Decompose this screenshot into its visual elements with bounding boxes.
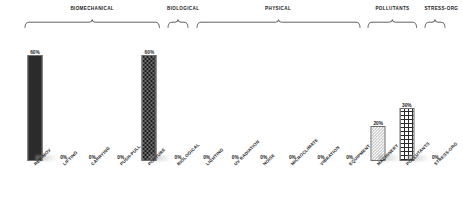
x-tick-vibration: VIBRATION: [308, 161, 334, 219]
bar-value-label: 20%: [373, 121, 383, 126]
bar-rep-mov[interactable]: 60%: [28, 55, 43, 161]
category-group-label: PHYSICAL: [196, 6, 361, 11]
x-tick-pollutants: POLLUTANTS: [394, 161, 420, 219]
bar-slot: 0%: [51, 46, 77, 161]
bar-value-label: 60%: [145, 50, 155, 55]
category-group-physical: PHYSICAL: [196, 6, 361, 46]
category-group-label: STRESS-ORG: [424, 6, 446, 11]
x-tick-microclimate: MICROCLIMATE: [279, 161, 305, 219]
bar-slot: 60%: [22, 46, 48, 161]
bar-chart: BIOMECHANICALBIOLOGICALPHYSICALPOLLUTANT…: [0, 0, 463, 219]
x-tick-posture: POSTURE: [136, 161, 162, 219]
bar-rect[interactable]: 60%: [28, 55, 43, 161]
bar-posture[interactable]: 60%: [142, 55, 157, 161]
x-tick-rep-mov: REP-MOV: [22, 161, 48, 219]
bar-slot: 0%: [337, 46, 363, 161]
category-group-biomechanical: BIOMECHANICAL: [24, 6, 160, 46]
bar-rect[interactable]: 30%: [399, 108, 414, 161]
x-tick-push-pull: PUSH-PULL: [108, 161, 134, 219]
category-group-pollutants: POLLUTANTS: [367, 6, 418, 46]
x-tick-machinery: MACHINERY: [365, 161, 391, 219]
group-brace-icon: [167, 19, 189, 28]
group-brace-icon: [367, 19, 418, 28]
x-tick-carrying: CARRYING: [79, 161, 105, 219]
bar-rect[interactable]: 60%: [142, 55, 157, 161]
x-tick-biological: BIOLOGICAL: [165, 161, 191, 219]
bar-pollutants[interactable]: 30%: [399, 108, 414, 161]
bar-value-label: 30%: [402, 103, 412, 108]
x-tick-lighting: LIGHTING: [194, 161, 220, 219]
bar-value-label: 60%: [30, 50, 40, 55]
bar-slot: 0%: [165, 46, 191, 161]
category-group-band: BIOMECHANICALBIOLOGICALPHYSICALPOLLUTANT…: [0, 0, 463, 46]
x-tick-lifting: LIFTING: [51, 161, 77, 219]
group-brace-icon: [196, 19, 361, 28]
x-tick-uv-radiation: UV RADIATION: [222, 161, 248, 219]
group-brace-icon: [24, 19, 160, 28]
x-tick-stress-org: STRESS-ORG: [422, 161, 448, 219]
category-group-stress-org: STRESS-ORG: [424, 6, 446, 46]
x-tick-equipment: EQUIPMENT: [337, 161, 363, 219]
group-brace-icon: [424, 19, 446, 28]
category-group-label: BIOMECHANICAL: [24, 6, 160, 11]
bar-slot: 0%: [222, 46, 248, 161]
category-group-biological: BIOLOGICAL: [167, 6, 189, 46]
bar-slot: 60%: [136, 46, 162, 161]
bar-slot: 0%: [79, 46, 105, 161]
x-axis-tick-labels: REP-MOVLIFTINGCARRYINGPUSH-PULLPOSTUREBI…: [0, 161, 463, 219]
bar-slot: 0%: [108, 46, 134, 161]
bar-slot: 0%: [279, 46, 305, 161]
category-group-label: POLLUTANTS: [367, 6, 418, 11]
x-tick-noise: NOISE: [251, 161, 277, 219]
bar-slot: 30%: [394, 46, 420, 161]
category-group-label: BIOLOGICAL: [167, 6, 189, 11]
